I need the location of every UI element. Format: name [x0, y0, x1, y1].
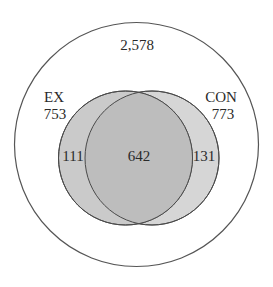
con-set-total: 773 [212, 106, 235, 122]
intersection-count: 642 [128, 148, 151, 164]
ex-only-count: 111 [62, 148, 83, 164]
universe-count: 2,578 [120, 37, 154, 53]
ex-set-label: EX [44, 89, 64, 105]
con-only-count: 131 [193, 148, 216, 164]
ex-set-total: 753 [44, 106, 67, 122]
con-set-label: CON [205, 89, 237, 105]
